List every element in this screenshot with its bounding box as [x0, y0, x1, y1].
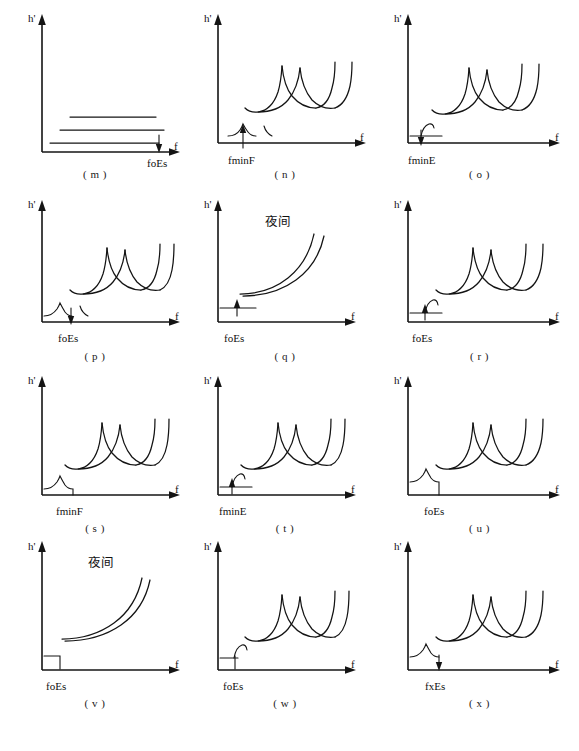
tick-label-foEs: foEs — [224, 332, 244, 344]
panel-caption-m: ( m ) — [0, 168, 190, 180]
panel-s: h' f fminF ( s ) — [0, 370, 190, 540]
panel-u: h' f foEs ( u ) — [380, 370, 579, 540]
y-axis-label: h' — [204, 198, 212, 210]
panel-w: h' f foEs ( w ) — [190, 540, 380, 731]
panel-n-plot: h' f fminF — [190, 0, 380, 190]
panel-caption-w: ( w ) — [190, 697, 380, 709]
x-axis-label: f — [175, 483, 179, 495]
y-axis-label: h' — [394, 12, 402, 24]
panel-caption-q: ( q ) — [190, 350, 380, 362]
y-axis-label: h' — [28, 540, 36, 552]
panel-caption-u: ( u ) — [380, 522, 579, 534]
es-step-trace — [44, 656, 60, 669]
panel-x: h' f fxEs ( x ) — [380, 540, 579, 731]
x-axis-label: f — [351, 310, 355, 322]
y-axis-label: h' — [394, 540, 402, 552]
axes — [404, 14, 560, 147]
ionogram-figure-grid: h' f foEs ( m ) h' f — [0, 0, 579, 751]
tick-label-fminF: fminF — [56, 505, 83, 517]
es-flat-hook-trace — [220, 645, 247, 669]
y-axis-label: h' — [28, 374, 36, 386]
x-axis-label: f — [175, 310, 179, 322]
panel-s-plot: h' f fminF — [0, 370, 190, 540]
x-axis-label: f — [555, 658, 559, 670]
es-low-traces — [228, 124, 272, 136]
es-flat-traces — [50, 117, 164, 143]
panel-n: h' f fminF ( n ) — [190, 0, 380, 190]
x-axis-label: f — [555, 483, 559, 495]
panel-v: h' f 夜间 foEs ( v ) — [0, 540, 190, 731]
tick-label-foEs: foEs — [46, 680, 66, 692]
annotation-night: 夜间 — [265, 214, 291, 229]
f-region-multi-hop-traces — [432, 64, 539, 114]
x-axis-label: f — [351, 483, 355, 495]
tick-label-foEs: foEs — [412, 332, 432, 344]
panel-o-plot: h' f fminE — [380, 0, 579, 190]
x-axis-label: f — [555, 310, 559, 322]
tick-label-fminF: fminF — [228, 154, 255, 166]
panel-t-plot: h' f fminE — [190, 370, 380, 540]
panel-q: h' f 夜间 foEs ( q ) — [190, 190, 380, 370]
panel-t: h' f fminE ( t ) — [190, 370, 380, 540]
panel-p: h' f foEs ( p ) — [0, 190, 190, 370]
panel-p-plot: h' f foEs — [0, 190, 190, 370]
y-axis-label: h' — [394, 198, 402, 210]
panel-caption-n: ( n ) — [190, 168, 380, 180]
panel-caption-t: ( t ) — [190, 522, 380, 534]
x-axis-label: f — [175, 658, 179, 670]
y-axis-label: h' — [394, 374, 402, 386]
panel-caption-p: ( p ) — [0, 350, 190, 362]
f-region-multi-hop-traces — [70, 244, 174, 294]
panel-u-plot: h' f foEs — [380, 370, 579, 540]
x-axis-label: f — [360, 131, 364, 143]
foEs-down-arrow — [156, 135, 162, 153]
panel-caption-s: ( s ) — [0, 522, 190, 534]
f-region-multi-hop-traces — [241, 419, 345, 469]
y-axis-label: h' — [204, 12, 212, 24]
es-cusp-traces — [44, 303, 88, 316]
e-region-flat-trace — [220, 474, 252, 487]
panel-caption-x: ( x ) — [380, 697, 579, 709]
f-region-multi-hop-traces — [436, 244, 543, 294]
y-axis-label: h' — [28, 198, 36, 210]
panel-caption-v: ( v ) — [0, 697, 190, 709]
es-step-trace — [410, 469, 439, 495]
tick-label-foEs: foEs — [424, 505, 444, 517]
f-region-multi-hop-traces — [65, 419, 169, 469]
panel-o: h' f fminE ( o ) — [380, 0, 579, 190]
panel-r: h' f foEs ( r ) — [380, 190, 579, 370]
x-axis-label: f — [174, 140, 178, 152]
tick-label-fxEs: fxEs — [425, 680, 445, 692]
f-region-multi-hop-traces — [436, 419, 543, 469]
panel-q-plot: h' f 夜间 foEs — [190, 190, 380, 370]
e-region-flat-trace — [410, 124, 442, 136]
y-axis-label: h' — [204, 374, 212, 386]
tick-label-fminE: fminE — [408, 154, 436, 166]
x-axis-label: f — [555, 131, 559, 143]
x-axis-label: f — [351, 658, 355, 670]
panel-caption-r: ( r ) — [380, 350, 579, 362]
annotation-night: 夜间 — [88, 555, 114, 570]
tick-label-foEs: foEs — [58, 332, 78, 344]
axes — [404, 200, 560, 326]
night-f-region-traces — [240, 234, 324, 296]
tick-label-fminE: fminE — [219, 505, 247, 517]
f-region-multi-hop-traces — [245, 62, 352, 112]
panel-r-plot: h' f foEs — [380, 190, 579, 370]
axes — [214, 376, 356, 499]
es-cusp-trace — [410, 644, 439, 657]
axes — [404, 376, 560, 499]
es-step-trace — [44, 476, 73, 495]
axes — [404, 541, 560, 674]
night-f-region-traces — [62, 578, 150, 641]
y-axis-label: h' — [204, 540, 212, 552]
panel-m-plot: h' f foEs — [0, 0, 190, 190]
f-region-multi-hop-traces — [436, 591, 543, 641]
tick-label-foEs: foEs — [223, 680, 243, 692]
axes — [214, 14, 366, 147]
axes — [38, 376, 180, 499]
foEs-up-arrow — [234, 299, 240, 316]
panel-caption-o: ( o ) — [380, 168, 579, 180]
fxEs-down-arrow — [436, 655, 442, 671]
panel-m: h' f foEs ( m ) — [0, 0, 190, 190]
